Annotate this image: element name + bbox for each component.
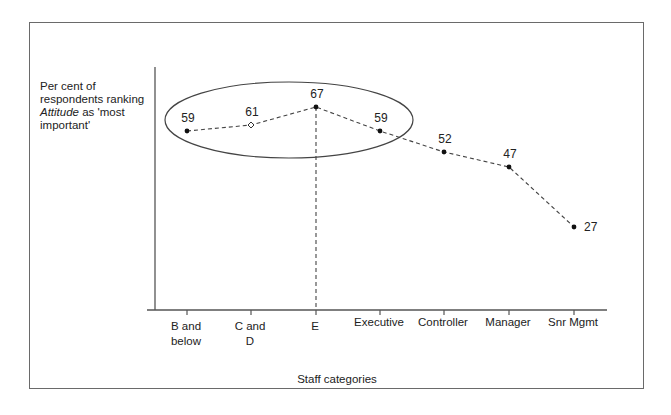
x-axis-tick-labels: B andbelowC andDEExecutiveControllerMana… xyxy=(171,316,599,347)
data-point-marker xyxy=(572,225,577,230)
data-point-marker xyxy=(378,129,383,134)
x-tick-label: Snr Mgmt xyxy=(548,316,599,328)
x-tick-label: Executive xyxy=(354,316,404,328)
x-axis-ticks xyxy=(187,310,574,315)
series-dashed-line xyxy=(187,107,574,227)
data-point-marker xyxy=(185,129,190,134)
data-point-label: 27 xyxy=(584,220,598,234)
x-tick-label: B and xyxy=(171,320,201,332)
data-point-label: 61 xyxy=(245,105,259,119)
data-point-label: 52 xyxy=(438,132,452,146)
data-point-marker xyxy=(442,150,447,155)
data-point-marker-hollow-diamond xyxy=(248,122,254,128)
x-tick-label: C and xyxy=(235,320,266,332)
data-point-labels: 59616759524727 xyxy=(181,87,597,234)
x-tick-label: Controller xyxy=(418,316,468,328)
x-axis-label: Staff categories xyxy=(297,373,377,385)
data-point-marker xyxy=(507,165,512,170)
x-tick-label: D xyxy=(246,335,254,347)
data-point-label: 59 xyxy=(374,111,388,125)
data-point-marker xyxy=(314,105,319,110)
x-tick-label: Manager xyxy=(485,316,531,328)
data-point-label: 59 xyxy=(181,111,195,125)
x-tick-label: below xyxy=(171,335,202,347)
data-point-label: 67 xyxy=(310,87,324,101)
x-tick-label: E xyxy=(311,320,319,332)
data-point-label: 47 xyxy=(503,147,517,161)
line-chart: B andbelowC andDEExecutiveControllerMana… xyxy=(0,0,671,415)
